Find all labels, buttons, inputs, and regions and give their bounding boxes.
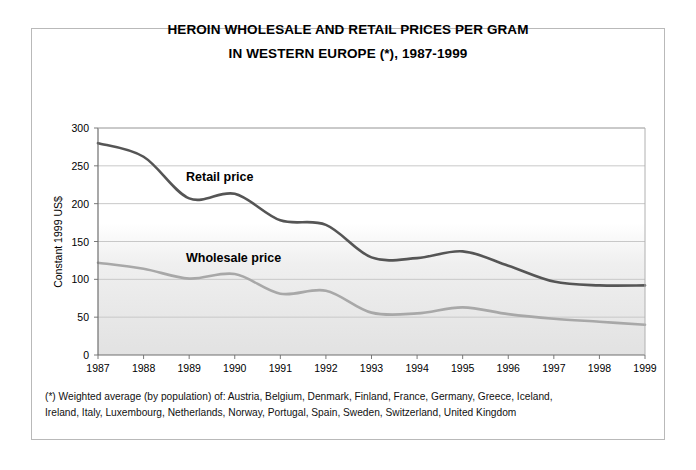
- y-tick-label: 150: [71, 236, 89, 248]
- footnote-line1: (*) Weighted average (by population) of:…: [45, 389, 645, 405]
- y-tick-label: 50: [77, 311, 89, 323]
- x-tick-label: 1994: [405, 362, 429, 374]
- y-tick-label: 300: [71, 122, 89, 134]
- x-tick-label: 1990: [223, 362, 247, 374]
- y-tick-label: 100: [71, 273, 89, 285]
- y-tick-label: 200: [71, 198, 89, 210]
- x-tick-label: 1996: [497, 362, 521, 374]
- x-tick-label: 1999: [633, 362, 657, 374]
- x-tick-label: 1997: [542, 362, 566, 374]
- y-axis-label: Constant 1999 US$: [52, 196, 64, 288]
- wholesale-series-annotation: Wholesale price: [186, 251, 281, 265]
- y-tick-label: 0: [83, 349, 89, 361]
- y-tick-label: 250: [71, 160, 89, 172]
- footnote: (*) Weighted average (by population) of:…: [45, 389, 645, 421]
- x-tick-label: 1991: [269, 362, 293, 374]
- x-tick-label: 1993: [360, 362, 384, 374]
- x-tick-label: 1987: [86, 362, 110, 374]
- x-tick-label: 1988: [132, 362, 156, 374]
- footnote-line2: Ireland, Italy, Luxembourg, Netherlands,…: [45, 405, 645, 421]
- x-tick-label: 1989: [177, 362, 201, 374]
- x-tick-label: 1992: [314, 362, 338, 374]
- x-tick-label: 1998: [588, 362, 612, 374]
- x-tick-label: 1995: [451, 362, 475, 374]
- retail-series-annotation: Retail price: [186, 170, 253, 184]
